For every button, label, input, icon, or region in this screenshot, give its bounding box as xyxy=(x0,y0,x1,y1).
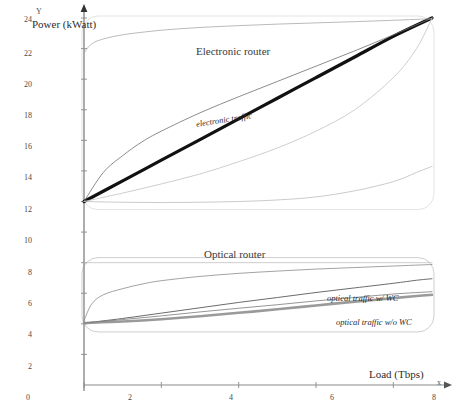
panel-title-optical-router: Optical router xyxy=(204,248,265,260)
y-tick-22: 22 xyxy=(16,49,32,58)
y-axis-arrow xyxy=(81,4,88,12)
chart-canvas xyxy=(0,0,457,419)
x-tick-4: 4 xyxy=(224,393,238,402)
x-axis-title: Load (Tbps) xyxy=(369,368,424,380)
y-tick-4: 4 xyxy=(16,330,32,339)
x-tick-2: 2 xyxy=(123,393,137,402)
y-tick-2: 2 xyxy=(16,362,32,371)
x-axis-arrow xyxy=(444,382,452,389)
x-tick-6: 6 xyxy=(325,393,339,402)
y-tick-20: 20 xyxy=(16,80,32,89)
panel-title-electronic-router: Electronic router xyxy=(196,45,270,57)
chart-figure: 24 22 20 18 16 14 12 10 8 6 4 2 0 2 4 6 … xyxy=(0,0,457,419)
y-tick-24: 24 xyxy=(16,15,32,24)
x-tick-0: 0 xyxy=(21,393,35,402)
y-tick-8: 8 xyxy=(16,268,32,277)
y-tick-18: 18 xyxy=(16,111,32,120)
y-tick-14: 14 xyxy=(16,173,32,182)
y-tick-10: 10 xyxy=(16,236,32,245)
series-label-optical-wc: optical traffic w/ WC xyxy=(327,293,399,303)
y-tick-16: 16 xyxy=(16,142,32,151)
x-tick-8: 8 xyxy=(427,393,441,402)
series-electronic-idle-floor xyxy=(84,166,432,202)
x-axis-letter: x xyxy=(437,378,441,387)
y-tick-12: 12 xyxy=(16,205,32,214)
series-label-optical-wo-wc: optical traffic w/o WC xyxy=(336,317,412,327)
y-axis-letter: Y xyxy=(36,7,42,16)
y-tick-6: 6 xyxy=(16,299,32,308)
y-axis-title: Power (kWatt) xyxy=(32,18,96,30)
